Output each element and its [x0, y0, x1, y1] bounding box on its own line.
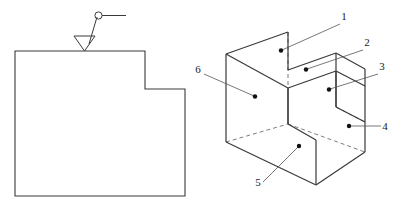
callout-5-leader-line [263, 147, 298, 182]
iso-hidden-edges [226, 32, 365, 152]
surface-finish-circle-icon [95, 12, 102, 19]
iso-edge [288, 124, 316, 140]
iso-face-callouts: 123456 [195, 10, 388, 188]
callout-6-label: 6 [195, 63, 201, 75]
iso-edge [336, 107, 365, 122]
callout-3-label: 3 [379, 60, 385, 72]
surface-finish-leader-line [89, 17, 97, 44]
iso-edge [288, 71, 336, 88]
iso-solid-edges [226, 32, 365, 185]
callout-5-label: 5 [255, 176, 261, 188]
surface-finish-triangle-icon [74, 36, 95, 51]
callout-3-face-dot [327, 87, 331, 91]
iso-edge [336, 53, 365, 69]
callout-1-leader-line [282, 24, 340, 50]
iso-edge [316, 152, 365, 185]
callout-5-face-dot [297, 144, 301, 148]
callout-4-label: 4 [382, 120, 388, 132]
callout-5: 5 [255, 144, 301, 188]
callout-1-face-dot [279, 48, 283, 52]
callout-4-face-dot [347, 124, 351, 128]
callout-3-leader-line [330, 74, 378, 89]
callout-1: 1 [279, 10, 347, 53]
iso-edge [226, 54, 288, 88]
iso-edge [226, 32, 288, 54]
left-orthographic-view [15, 12, 185, 196]
iso-hidden-edge [226, 124, 288, 142]
drawing-page: 123456 [0, 0, 408, 211]
callout-2-face-dot [304, 67, 308, 71]
iso-edge [226, 142, 316, 185]
callout-6-face-dot [253, 94, 257, 98]
technical-drawing-canvas: 123456 [0, 0, 408, 211]
surface-finish-symbol [74, 12, 126, 51]
callout-4: 4 [347, 120, 388, 132]
callout-6-leader-line [204, 74, 254, 96]
iso-edge [336, 71, 365, 86]
callout-2-label: 2 [364, 36, 370, 48]
stepped-profile-outline [15, 51, 185, 196]
callout-1-label: 1 [341, 10, 347, 22]
